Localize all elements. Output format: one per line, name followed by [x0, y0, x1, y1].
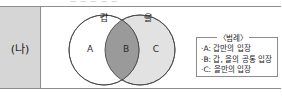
row-content-cell: A B C 갑 을 〈범례〉 ·A: 갑만의 입장 ·B: 갑, 을의 공통 입… — [42, 7, 281, 88]
venn-set-label-right: 을 — [140, 11, 156, 24]
clipped-header-text: ㅡ ㅡ ㅡ ㅡ ㅡ — [70, 0, 200, 5]
venn-region-label-a: A — [83, 44, 97, 54]
legend-item: ·B: 갑, 을의 공통 입장 — [201, 55, 275, 66]
legend-box: 〈범례〉 ·A: 갑만의 입장 ·B: 갑, 을의 공통 입장 ·C: 을만의 … — [196, 37, 278, 77]
legend-title: 〈범례〉 — [217, 32, 249, 43]
row-label-cell: (나) — [0, 7, 41, 88]
legend-item-list: ·A: 갑만의 입장 ·B: 갑, 을의 공통 입장 ·C: 을만의 입장 — [201, 44, 275, 76]
legend-item: ·A: 갑만의 입장 — [201, 44, 275, 55]
venn-region-label-c: C — [149, 44, 163, 54]
row-label-text: (나) — [11, 40, 30, 56]
venn-set-label-left: 갑 — [96, 11, 112, 24]
legend-item: ·C: 을만의 입장 — [201, 65, 275, 76]
venn-diagram: A B C 갑 을 — [56, 12, 208, 88]
screenshot-root: ㅡ ㅡ ㅡ ㅡ ㅡ (나) — [0, 0, 282, 98]
venn-region-label-b: B — [119, 44, 133, 54]
